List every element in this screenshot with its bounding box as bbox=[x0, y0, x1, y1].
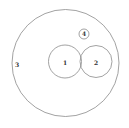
circle-2-group: 2 bbox=[80, 46, 112, 78]
circle-diagram: 3 1 2 4 bbox=[0, 0, 129, 128]
circle-4-label: 4 bbox=[82, 30, 86, 37]
circle-1-label: 1 bbox=[63, 59, 67, 66]
circle-4-group: 4 bbox=[79, 29, 89, 39]
circle-1-group: 1 bbox=[49, 45, 82, 78]
circle-2-label: 2 bbox=[94, 59, 98, 66]
circle-3-label: 3 bbox=[15, 61, 19, 68]
